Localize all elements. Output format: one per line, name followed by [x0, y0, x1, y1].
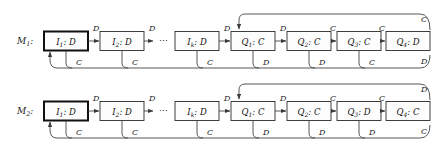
return-label-m1-0: C — [76, 58, 82, 67]
return-stub-m1-5 — [359, 51, 365, 68]
return-label-m2-4: D — [318, 128, 326, 137]
edge-label-m2-f4: C — [330, 94, 336, 103]
edge-label-m2-f1: D — [148, 94, 156, 103]
return-arrow-m2 — [50, 122, 57, 138]
return-label-m2-0: C — [76, 128, 82, 137]
state-label-m2-3: Q1: C — [242, 107, 265, 118]
edge-label-m1-f1: D — [148, 24, 156, 33]
return-stub-m2-3 — [253, 121, 259, 138]
state-label-m1-6: Q4: D — [396, 37, 419, 48]
loop-bottom-label-m2: C — [421, 127, 427, 136]
return-stub-m2-5 — [359, 121, 365, 138]
return-label-m2-3: D — [262, 128, 270, 137]
ellipsis-m1: ⋯ — [159, 36, 168, 46]
return-stub-m1-2 — [197, 51, 203, 68]
return-stub-m1-0 — [66, 51, 72, 68]
state-label-m2-0: I1: D — [55, 107, 76, 118]
state-label-m1-3: Q1: C — [242, 37, 265, 48]
edge-label-m2-f3: D — [279, 94, 287, 103]
return-label-m1-3: D — [262, 58, 270, 67]
edge-label-m1-f0: D — [92, 24, 100, 33]
return-label-m2-2: C — [207, 128, 213, 137]
ellipsis-m2: ⋯ — [159, 106, 168, 116]
machine-m2: M2: I1: D I2: D ⋯ Ik: D Q1: C Q2: C Q3: … — [16, 84, 430, 138]
loop-bottom-label-m1: D — [420, 57, 428, 66]
state-label-m2-5: Q3: D — [347, 107, 370, 118]
return-stub-m1-4 — [309, 51, 315, 68]
return-stub-m2-0 — [66, 121, 72, 138]
machine-m1: M1: I1: D I2: D ⋯ Ik: D Q1: C Q2: C Q3: … — [16, 14, 430, 68]
return-label-m1-5: C — [369, 58, 375, 67]
state-label-m1-5: Q3: C — [348, 37, 371, 48]
return-stub-m2-4 — [309, 121, 315, 138]
edge-label-m1-f4: C — [330, 24, 336, 33]
return-label-m2-5: D — [368, 128, 376, 137]
return-stub-m1-1 — [122, 51, 128, 68]
state-label-m1-4: Q2: C — [298, 37, 321, 48]
edge-label-m1-f5: C — [379, 24, 385, 33]
state-label-m1-0: I1: D — [55, 37, 76, 48]
edge-label-m2-f5: C — [379, 94, 385, 103]
return-label-m1-1: C — [132, 58, 138, 67]
edge-label-m1-f3: D — [279, 24, 287, 33]
return-stub-m2-1 — [122, 121, 128, 138]
state-label-m2-2: Ik: D — [186, 107, 207, 118]
loop-top-label-m1: C — [421, 15, 427, 24]
machine-m2-label: M2: — [16, 106, 33, 118]
state-label-m2-6: Q4: C — [397, 107, 420, 118]
return-stub-m2-2 — [197, 121, 203, 138]
return-label-m1-2: C — [207, 58, 213, 67]
state-label-m2-1: I2: D — [111, 107, 132, 118]
state-label-m1-1: I2: D — [111, 37, 132, 48]
state-label-m2-4: Q2: C — [298, 107, 321, 118]
state-label-m1-2: Ik: D — [186, 37, 207, 48]
edge-label-m2-f0: D — [92, 94, 100, 103]
return-label-m2-1: C — [132, 128, 138, 137]
edge-label-m2-f2: D — [223, 94, 231, 103]
return-stub-m1-3 — [253, 51, 259, 68]
loop-top-label-m2: D — [420, 85, 428, 94]
edge-label-m1-f2: D — [223, 24, 231, 33]
machine-m1-label: M1: — [16, 36, 33, 48]
state-machine-figure: M1: I1: D I2: D ⋯ Ik: D Q1: C Q2: C Q3: … — [0, 0, 434, 147]
return-label-m1-4: D — [318, 58, 326, 67]
return-arrow-m1 — [50, 52, 57, 68]
